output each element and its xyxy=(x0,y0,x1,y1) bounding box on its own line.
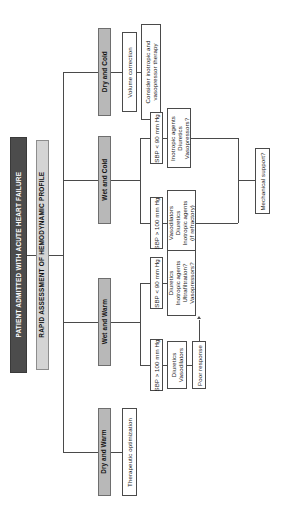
connector-trunk-dry-cold xyxy=(63,72,98,73)
connector-assessment-trunk xyxy=(49,255,63,256)
connector-trunk-dry-warm xyxy=(63,452,98,453)
node-poor-response[interactable]: Poor response xyxy=(192,341,206,389)
node-consider-inotropic-vasopressor-label: Consider inotropic and vasopressor thera… xyxy=(144,40,158,103)
root-node-label: PATIENT ADMITTED WITH ACUTE HEART FAILUR… xyxy=(15,172,22,338)
connector-root-assessment xyxy=(27,255,36,256)
profile-wet-and-cold-label: Wet and Cold xyxy=(101,159,108,201)
node-wet-warm-sbp-high-treatment[interactable]: Diuretics Vasodilators xyxy=(167,341,187,389)
flowchart-canvas: PATIENT ADMITTED WITH ACUTE HEART FAILUR… xyxy=(0,0,281,525)
connector-poor-response-arrow-shaft xyxy=(199,320,200,341)
connector-dry-cold-volume xyxy=(111,72,122,73)
node-mechanical-support-label: Mechanical support? xyxy=(259,152,266,210)
node-wet-cold-sbp-high-treatment[interactable]: Vasodilators Diuretics Inotropic agents … xyxy=(167,190,196,256)
node-volume-correction[interactable]: Volume correction xyxy=(122,32,137,112)
assessment-node: RAPID ASSESSMENT OF HEMODYNAMIC PROFILE xyxy=(36,140,49,370)
node-mechanical-support[interactable]: Mechanical support? xyxy=(255,148,270,214)
node-wet-cold-sbp-low[interactable]: SBP < 90 mm Hg xyxy=(150,112,163,164)
node-poor-response-label: Poor response xyxy=(196,345,203,386)
profile-dry-and-warm[interactable]: Dry and Warm xyxy=(98,408,111,496)
root-node-patient-admitted: PATIENT ADMITTED WITH ACUTE HEART FAILUR… xyxy=(10,137,27,373)
profile-wet-and-cold[interactable]: Wet and Cold xyxy=(98,136,111,224)
node-consider-inotropic-vasopressor[interactable]: Consider inotropic and vasopressor thera… xyxy=(141,24,161,120)
profile-dry-and-cold[interactable]: Dry and Cold xyxy=(98,28,111,116)
connector-wet-warm-split xyxy=(111,322,140,323)
connector-wet-cold-high-merge xyxy=(196,223,238,224)
node-wet-cold-sbp-high-treatment-label: Vasodilators Diuretics Inotropic agents … xyxy=(168,201,196,246)
node-wet-cold-sbp-high-label: SBP > 100 mm Hg xyxy=(153,197,160,249)
connector-merge-mechanical-support xyxy=(238,180,255,181)
node-therapeutic-optimization-label: Therapeutic optimization xyxy=(126,418,133,487)
node-wet-warm-sbp-low-treatment-label: Diuretics Inotropic agents Ultrafiltrati… xyxy=(168,261,196,306)
connector-wet-warm-sbp-high xyxy=(140,365,150,366)
node-wet-warm-sbp-low[interactable]: SBP < 90 mm Hg xyxy=(150,257,163,309)
connector-wet-cold-low-merge xyxy=(191,138,238,139)
node-volume-correction-label: Volume correction xyxy=(126,47,133,97)
connector-dry-warm-tx xyxy=(111,452,122,453)
node-wet-warm-sbp-high-label: SBP > 100 mm Hg xyxy=(153,339,160,391)
profile-dry-and-warm-label: Dry and Warm xyxy=(101,430,108,474)
node-wet-cold-sbp-high[interactable]: SBP > 100 mm Hg xyxy=(150,197,163,249)
connector-trunk-wet-warm xyxy=(63,322,98,323)
connector-wet-cold-sbp-low xyxy=(140,138,150,139)
node-wet-cold-sbp-low-treatment[interactable]: Inotropic agents Diuretics Vasopressors? xyxy=(167,108,191,168)
node-therapeutic-optimization[interactable]: Therapeutic optimization xyxy=(122,408,137,496)
node-wet-warm-sbp-high[interactable]: SBP > 100 mm Hg xyxy=(150,339,163,391)
profile-wet-and-warm[interactable]: Wet and Warm xyxy=(98,278,111,366)
node-wet-warm-sbp-low-treatment[interactable]: Diuretics Inotropic agents Ultrafiltrati… xyxy=(167,250,196,316)
poor-response-arrowhead-icon xyxy=(197,316,201,319)
profile-wet-and-warm-label: Wet and Warm xyxy=(101,299,108,344)
profile-dry-and-cold-label: Dry and Cold xyxy=(101,52,108,93)
assessment-node-label: RAPID ASSESSMENT OF HEMODYNAMIC PROFILE xyxy=(39,172,46,338)
connector-wet-warm-sbp-low xyxy=(140,283,150,284)
split-wet-cold-vertical xyxy=(140,138,141,223)
node-wet-cold-sbp-low-label: SBP < 90 mm Hg xyxy=(153,114,160,163)
trunk-vertical xyxy=(63,72,64,452)
connector-trunk-wet-cold xyxy=(63,180,98,181)
node-wet-warm-sbp-high-treatment-label: Diuretics Vasodilators xyxy=(170,348,184,382)
connector-wet-cold-split xyxy=(111,180,140,181)
connector-wet-cold-sbp-high xyxy=(140,223,150,224)
node-wet-warm-sbp-low-label: SBP < 90 mm Hg xyxy=(153,259,160,308)
split-wet-warm-vertical xyxy=(140,283,141,365)
node-wet-cold-sbp-low-treatment-label: Inotropic agents Diuretics Vasopressors? xyxy=(169,116,190,161)
